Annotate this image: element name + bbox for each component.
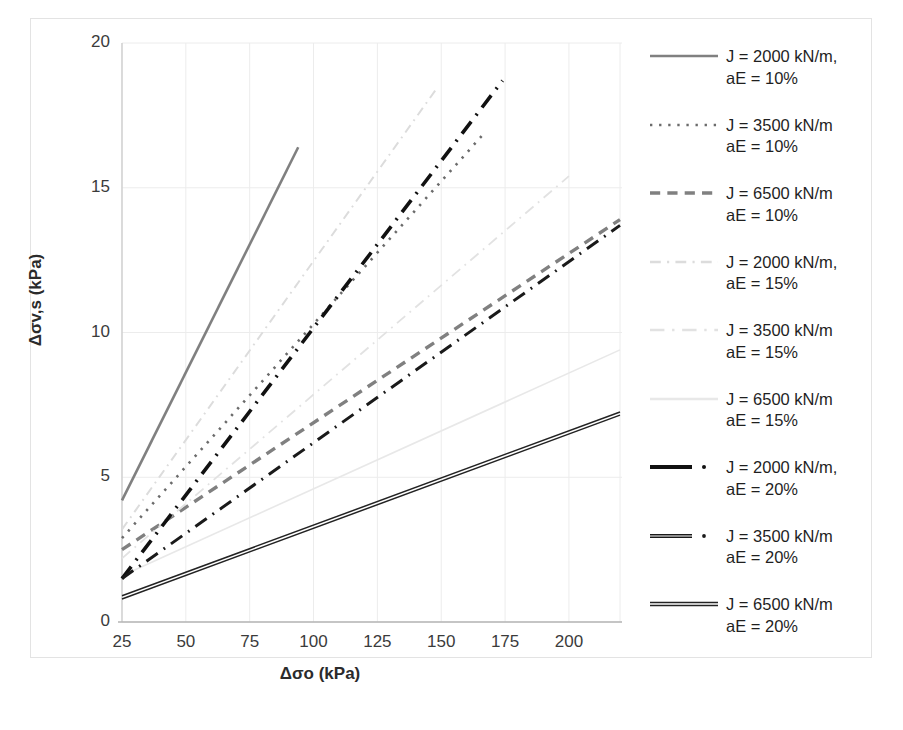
legend-entry: J = 2000 kN/m,aE = 15% xyxy=(648,252,894,296)
x-axis-tick-label: 200 xyxy=(539,632,599,652)
legend-label-line2: aE = 15% xyxy=(726,342,833,364)
y-axis-tick-label: 15 xyxy=(70,177,110,197)
legend-label: J = 2000 kN/m,aE = 10% xyxy=(726,46,837,90)
legend-label: J = 6500 kN/maE = 10% xyxy=(726,183,833,227)
solid-gray-key xyxy=(648,46,720,66)
legend-label: J = 3500 kN/maE = 20% xyxy=(726,526,833,570)
x-axis-tick-label: 75 xyxy=(220,632,280,652)
legend-label-line1: J = 6500 kN/m xyxy=(726,594,833,616)
legend-entry: J = 2000 kN/m,aE = 20% xyxy=(648,457,894,501)
solid-faint-key xyxy=(648,389,720,409)
legend-label-line1: J = 3500 kN/m xyxy=(726,115,833,137)
legend-label: J = 6500 kN/maE = 20% xyxy=(726,594,833,638)
x-axis-tick-label: 25 xyxy=(92,632,152,652)
legend-label-line1: J = 3500 kN/m xyxy=(726,320,833,342)
series-line xyxy=(122,81,503,579)
legend-label-line1: J = 2000 kN/m, xyxy=(726,252,837,274)
legend-label-line2: aE = 10% xyxy=(726,205,833,227)
series-line xyxy=(122,225,620,578)
legend-label-line2: aE = 10% xyxy=(726,68,837,90)
legend-entry: J = 3500 kN/maE = 10% xyxy=(648,115,894,159)
x-axis-tick-label: 125 xyxy=(347,632,407,652)
dashdot-black-key xyxy=(648,457,720,477)
y-axis-tick-label: 0 xyxy=(70,611,110,631)
dotted-gray-key xyxy=(648,115,720,135)
y-axis-tick-label: 10 xyxy=(70,322,110,342)
y-axis-tick-label: 20 xyxy=(70,32,110,52)
legend-label-line1: J = 2000 kN/m, xyxy=(726,46,837,68)
legend-entry: J = 3500 kN/maE = 20% xyxy=(648,526,894,570)
y-axis-tick-label: 5 xyxy=(70,466,110,486)
data-series-group xyxy=(122,81,620,599)
x-axis-title: Δσo (kPa) xyxy=(0,664,640,684)
dashed-gray-key xyxy=(648,183,720,203)
x-axis-tick-label: 50 xyxy=(156,632,216,652)
series-line xyxy=(122,412,620,599)
dashdot-black-thin-key xyxy=(648,526,720,546)
legend-label-line2: aE = 15% xyxy=(726,273,837,295)
chart-figure: 05101520255075100125150175200 Δσv,s (kPa… xyxy=(0,0,903,730)
legend-entry: J = 6500 kN/maE = 15% xyxy=(648,389,894,433)
legend-entry: J = 6500 kN/maE = 20% xyxy=(648,594,894,638)
x-axis-tick-label: 100 xyxy=(284,632,344,652)
legend-label: J = 3500 kN/maE = 10% xyxy=(726,115,833,159)
chart-legend: J = 2000 kN/m,aE = 10%J = 3500 kN/maE = … xyxy=(648,46,894,663)
dashdot-faint-key xyxy=(648,252,720,272)
legend-label: J = 3500 kN/maE = 15% xyxy=(726,320,833,364)
legend-entry: J = 2000 kN/m,aE = 10% xyxy=(648,46,894,90)
dashdot-faint-long-key xyxy=(648,320,720,340)
solid-black-key xyxy=(648,594,720,614)
legend-label-line1: J = 2000 kN/m, xyxy=(726,457,837,479)
legend-label-line2: aE = 20% xyxy=(726,616,833,638)
x-axis-tick-label: 175 xyxy=(475,632,535,652)
y-axis-title: Δσv,s (kPa) xyxy=(26,254,46,347)
gridlines xyxy=(122,43,622,622)
series-line xyxy=(122,147,298,500)
legend-label-line1: J = 3500 kN/m xyxy=(726,526,833,548)
legend-entry: J = 3500 kN/maE = 15% xyxy=(648,320,894,364)
x-axis-tick-label: 150 xyxy=(411,632,471,652)
legend-label: J = 2000 kN/m,aE = 15% xyxy=(726,252,837,296)
legend-label-line1: J = 6500 kN/m xyxy=(726,389,833,411)
series-line xyxy=(122,89,436,529)
legend-label-line2: aE = 20% xyxy=(726,547,833,569)
legend-entry: J = 6500 kN/maE = 10% xyxy=(648,183,894,227)
legend-label: J = 2000 kN/m,aE = 20% xyxy=(726,457,837,501)
legend-label-line2: aE = 15% xyxy=(726,410,833,432)
legend-label-line2: aE = 20% xyxy=(726,479,837,501)
legend-label-line1: J = 6500 kN/m xyxy=(726,183,833,205)
legend-label-line2: aE = 10% xyxy=(726,136,833,158)
legend-label: J = 6500 kN/maE = 15% xyxy=(726,389,833,433)
